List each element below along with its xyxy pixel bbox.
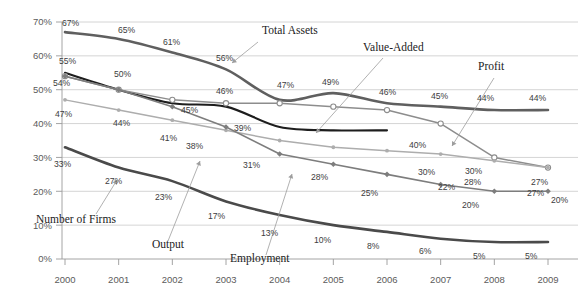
data-label: 6% [419,246,432,256]
data-label: 25% [361,188,379,198]
data-point-marker [546,166,550,170]
data-point-marker [331,104,336,109]
x-tick-label: 2008 [484,274,505,285]
chart-canvas: 0%10%20%30%40%50%60%70%20002001200220032… [0,0,588,303]
x-tick-label: 2007 [430,274,451,285]
data-point-marker [384,107,389,112]
data-label: 30% [418,167,436,177]
data-label: 49% [322,77,340,87]
x-tick-label: 2005 [323,274,344,285]
data-label: 67% [62,18,80,28]
y-tick-label: 0% [38,253,52,264]
line-chart: 0%10%20%30%40%50%60%70%20002001200220032… [0,0,588,303]
data-point-marker [331,161,337,167]
data-point-marker [492,188,498,194]
data-label: 5% [473,251,486,261]
data-label: 44% [477,93,495,103]
data-label: 30% [465,166,483,176]
series-annotation: Number of Firms [36,213,116,225]
x-tick-label: 2009 [537,274,558,285]
data-point-marker [545,188,551,194]
leader-line [168,161,200,241]
data-point-marker [170,118,174,122]
data-label: 41% [160,133,178,143]
data-point-marker [278,139,282,143]
series-line-total-assets [65,32,548,110]
x-axis: 2000200120022003200420052006200720082009 [54,259,558,285]
data-label: 27% [105,176,123,186]
y-tick-label: 20% [33,186,53,197]
data-label: 47% [55,109,73,119]
data-label: 54% [53,78,71,88]
data-label: 47% [277,80,295,90]
data-label: 17% [208,211,226,221]
data-label: 44% [113,118,131,128]
data-point-marker [277,151,283,157]
data-point-marker [170,97,175,102]
x-tick-label: 2002 [162,274,183,285]
data-labels: 67%65%61%56%47%49%46%45%44%44%55%50%46%4… [53,18,569,261]
data-label: 56% [216,53,234,63]
data-label: 61% [163,37,181,47]
series-annotation: Value-Added [363,41,424,53]
data-point-marker [438,121,443,126]
series-line-number-of-firms [65,147,548,242]
data-point-marker [63,98,67,102]
series-annotation: Employment [230,252,290,265]
y-tick-label: 40% [33,118,53,129]
data-label: 27% [531,177,549,187]
data-label: 22% [438,182,456,192]
data-label: 50% [114,69,132,79]
series-annotation: Total Assets [262,24,318,36]
data-label: 39% [234,123,252,133]
series-annotation: Output [152,238,185,251]
data-label: 28% [464,177,482,187]
leader-line [452,78,494,146]
y-tick-label: 50% [33,84,53,95]
data-point-marker [384,172,390,178]
x-tick-label: 2000 [54,274,75,285]
data-label: 31% [243,160,261,170]
y-tick-label: 60% [33,50,53,61]
data-label: 46% [379,87,397,97]
x-tick-label: 2006 [376,274,397,285]
data-label: 44% [529,93,547,103]
leader-line [316,58,383,133]
data-label: 65% [118,25,136,35]
data-label: 20% [462,200,480,210]
data-point-marker [170,104,176,110]
data-label: 40% [409,140,427,150]
data-label: 45% [181,105,199,115]
data-point-marker [331,145,335,149]
data-label: 38% [186,141,204,151]
data-point-marker [385,149,389,153]
data-label: 45% [431,91,449,101]
data-label: 46% [216,86,234,96]
data-label: 5% [525,251,538,261]
data-point-marker [492,159,496,163]
data-label: 20% [551,195,569,205]
data-label: 28% [311,172,329,182]
data-point-marker [223,124,229,130]
data-label: 13% [261,228,279,238]
data-label: 23% [155,192,173,202]
data-point-marker [277,101,282,106]
y-tick-label: 30% [33,152,53,163]
leader-line [266,174,292,255]
annotation-leaders [96,42,494,255]
series-annotation: Profit [478,60,505,72]
data-label: 8% [367,241,380,251]
data-label: 55% [59,56,77,66]
data-point-marker [117,108,121,112]
x-tick-label: 2004 [269,274,290,285]
x-tick-label: 2001 [108,274,129,285]
y-tick-label: 70% [33,16,53,27]
data-point-marker [223,101,228,106]
data-label: 10% [314,235,332,245]
x-tick-label: 2003 [215,274,236,285]
y-tick-labels: 0%10%20%30%40%50%60%70% [33,16,53,264]
data-label: 27% [527,188,545,198]
data-point-marker [439,152,443,156]
leader-line [232,42,258,63]
data-label: 33% [54,159,72,169]
